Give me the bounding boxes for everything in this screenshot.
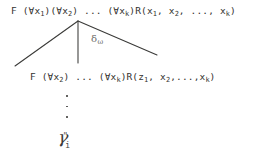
vertical-ellipsis bbox=[66, 95, 68, 118]
root-relation-argk-base: , ..., x bbox=[179, 5, 226, 16]
root-relation-arg2-base: , x bbox=[157, 5, 175, 16]
leaf-symbol-gamma: γ"i bbox=[58, 128, 77, 147]
root-quantifier-k-base: ) ... (∀x bbox=[72, 5, 125, 16]
gamma-subscript-i: i bbox=[65, 141, 70, 150]
gamma-prime-marks: " bbox=[63, 131, 67, 141]
ellipsis-dot-2 bbox=[66, 106, 68, 108]
root-quantifier-2-base: )(∀x bbox=[45, 5, 68, 16]
child-quantifier-k-base: ) ... (∀x bbox=[64, 71, 117, 82]
ellipsis-dot-1 bbox=[66, 95, 68, 97]
delta-glyph: δ bbox=[91, 33, 97, 44]
child-quantifier-2-base: (∀x bbox=[36, 71, 59, 82]
child-closing-paren: ) bbox=[210, 71, 216, 82]
derivation-diagram-canvas: F (∀x1)(∀x2) ... (∀xk)R(x1, x2, ..., xk)… bbox=[0, 0, 259, 159]
root-formula-line: F (∀x1)(∀x2) ... (∀xk)R(x1, x2, ..., xk) bbox=[11, 5, 236, 18]
right-branch-line bbox=[78, 21, 157, 55]
rule-label-delta-omega: δω bbox=[91, 33, 103, 46]
left-branch-line bbox=[15, 21, 78, 66]
omega-subscript-glyph: ω bbox=[98, 38, 104, 46]
root-closing-paren: ) bbox=[230, 5, 236, 16]
ellipsis-dot-3 bbox=[66, 116, 68, 118]
root-relation-arg1-base: )R(x bbox=[129, 5, 152, 16]
child-relation-arg-z-base: )R(z bbox=[121, 71, 144, 82]
child-formula-line: F (∀x2) ... (∀xk)R(z1, x2,...,xk) bbox=[30, 71, 215, 84]
child-relation-arg2-base: , x bbox=[148, 71, 166, 82]
root-quantifier-1-base: (∀x bbox=[17, 5, 40, 16]
child-relation-argk-base: ,...,x bbox=[170, 71, 205, 82]
